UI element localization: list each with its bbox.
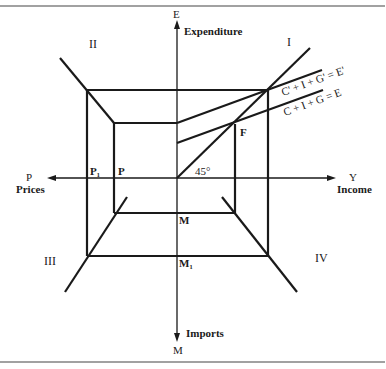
quadrant-label-i: I xyxy=(287,35,291,49)
axis-y-label: Income xyxy=(337,183,372,195)
point-f-label: F xyxy=(240,126,247,138)
quadrant-label-iv: IV xyxy=(315,251,328,265)
axis-p-symbol: P xyxy=(26,171,32,183)
axis-e-label: Expenditure xyxy=(184,25,243,37)
arrow-down-icon xyxy=(174,333,180,342)
axis-e-symbol: E xyxy=(173,8,180,20)
point-p1-label: P₁ xyxy=(90,165,100,177)
axis-y-symbol: Y xyxy=(349,171,357,183)
quadrant-iv-line xyxy=(222,197,297,292)
point-m-label: M xyxy=(179,214,190,226)
arrow-up-icon xyxy=(174,20,180,29)
inner-rectangle xyxy=(114,123,235,213)
quadrant-label-ii: II xyxy=(89,37,97,51)
lower-expenditure-line xyxy=(177,90,323,143)
arrow-left-icon xyxy=(47,175,56,181)
quadrant-iii-line xyxy=(65,197,127,292)
point-p-label: P xyxy=(118,165,125,177)
upper-expenditure-line xyxy=(177,70,322,123)
axis-m-label: Imports xyxy=(186,327,225,339)
quadrant-label-iii: III xyxy=(44,254,56,268)
four-quadrant-diagram: E Expenditure Y Income P Prices Imports … xyxy=(0,0,386,369)
axis-m-symbol: M xyxy=(173,344,183,356)
axes xyxy=(47,20,336,342)
point-m1-label: M₁ xyxy=(179,257,193,269)
axis-p-label: Prices xyxy=(16,183,45,195)
angle-label: 45° xyxy=(195,165,210,177)
arrow-right-icon xyxy=(327,175,336,181)
